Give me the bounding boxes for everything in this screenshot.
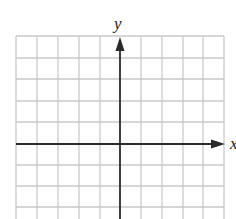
- coordinate-grid: y x: [0, 0, 236, 219]
- x-axis-arrow-icon: [211, 140, 225, 149]
- x-axis-label: x: [229, 134, 236, 153]
- y-axis: [116, 37, 125, 219]
- y-axis-arrow-icon: [116, 37, 125, 51]
- y-axis-label: y: [112, 14, 122, 33]
